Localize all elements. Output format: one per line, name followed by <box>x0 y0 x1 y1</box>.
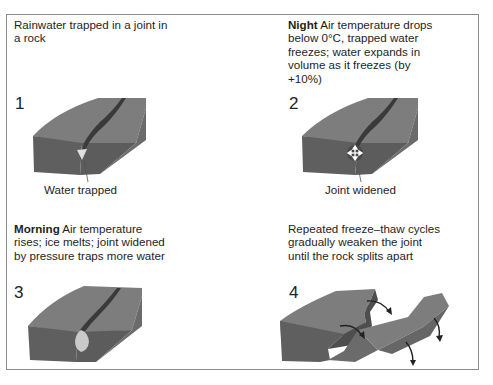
panel-1-rock <box>33 98 146 182</box>
water-trapped-label: Water trapped <box>44 183 117 196</box>
joint-widened-label: Joint widened <box>325 183 396 196</box>
panel-4-rocks <box>280 289 449 366</box>
panel-2-rock <box>302 98 418 182</box>
panel-3-rock <box>28 286 142 362</box>
